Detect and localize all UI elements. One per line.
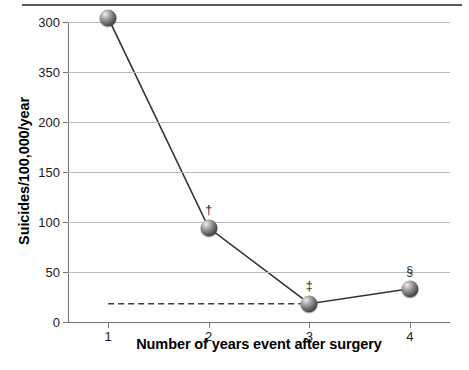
- y-tick-label: 100: [38, 215, 60, 230]
- point-annotation: §: [406, 264, 413, 277]
- plot-area: 300350200150100500 1234 *†‡§: [68, 22, 450, 322]
- gridline: [68, 222, 450, 223]
- y-tick-mark: [63, 172, 68, 173]
- data-point-marker: [100, 9, 117, 26]
- y-tick-mark: [63, 272, 68, 273]
- y-axis-title: Suicides/100,000/year: [16, 46, 32, 296]
- y-tick-label: 0: [53, 315, 60, 330]
- gridline: [68, 172, 450, 173]
- x-tick-mark: [410, 322, 411, 328]
- gridline: [68, 72, 450, 73]
- gridline: [68, 22, 450, 23]
- top-rule-divider: [22, 4, 462, 6]
- gridline: [68, 322, 450, 323]
- figure-container: Suicides/100,000/year 300350200150100500…: [0, 0, 469, 370]
- y-tick-mark: [63, 122, 68, 123]
- series-line: [108, 18, 410, 304]
- x-tick-mark: [108, 322, 109, 328]
- gridline: [68, 272, 450, 273]
- data-point-marker: [401, 280, 418, 297]
- y-tick-label: 50: [46, 265, 60, 280]
- x-tick-mark: [309, 322, 310, 328]
- y-tick-label: 350: [38, 65, 60, 80]
- y-tick-label: 150: [38, 165, 60, 180]
- point-annotation: ‡: [306, 279, 313, 292]
- y-tick-mark: [63, 22, 68, 23]
- y-tick-label: 300: [38, 15, 60, 30]
- point-annotation: †: [205, 203, 212, 216]
- point-annotation: *: [106, 0, 111, 6]
- y-tick-mark: [63, 322, 68, 323]
- data-point-marker: [200, 219, 217, 236]
- y-tick-mark: [63, 72, 68, 73]
- y-tick-label: 200: [38, 115, 60, 130]
- data-point-marker: [301, 295, 318, 312]
- x-tick-mark: [209, 322, 210, 328]
- gridline: [68, 122, 450, 123]
- x-axis-title: Number of years event after surgery: [68, 336, 450, 352]
- y-tick-mark: [63, 222, 68, 223]
